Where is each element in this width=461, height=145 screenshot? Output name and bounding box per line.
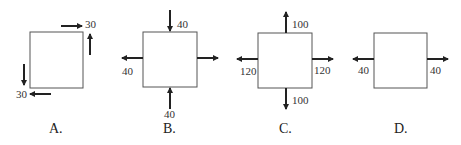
element-box-a bbox=[30, 32, 83, 88]
element-box-b bbox=[143, 32, 197, 87]
force-label-d-right: 40 bbox=[430, 64, 442, 76]
diagram-label-d: D. bbox=[394, 121, 408, 136]
diagram-label-a: A. bbox=[49, 121, 63, 136]
force-label-b-left: 40 bbox=[122, 65, 134, 77]
force-label-c-top: 100 bbox=[292, 18, 309, 30]
force-label-a-bottom: 30 bbox=[16, 88, 28, 100]
force-label-d-left: 40 bbox=[358, 64, 370, 76]
force-label-c-bottom: 100 bbox=[292, 94, 309, 106]
element-box-d bbox=[374, 33, 427, 88]
element-box-c bbox=[258, 33, 312, 88]
force-label-b-top: 40 bbox=[177, 18, 189, 30]
diagram-d: 40 40 D. bbox=[353, 33, 448, 136]
diagram-a: 30 30 A. bbox=[16, 18, 97, 136]
diagram-c: 100 120 120 100 C. bbox=[237, 12, 333, 136]
force-label-b-bottom: 40 bbox=[164, 108, 176, 120]
diagram-label-c: C. bbox=[279, 121, 292, 136]
diagram-b: 40 40 40 B. bbox=[122, 10, 218, 136]
force-label-c-left: 120 bbox=[240, 65, 257, 77]
diagram-label-b: B. bbox=[163, 121, 176, 136]
force-label-c-right: 120 bbox=[314, 64, 331, 76]
stress-diagrams: 30 30 A. 40 40 40 B. 100 120 120 100 C. … bbox=[0, 0, 461, 145]
force-label-a-top: 30 bbox=[85, 18, 97, 30]
